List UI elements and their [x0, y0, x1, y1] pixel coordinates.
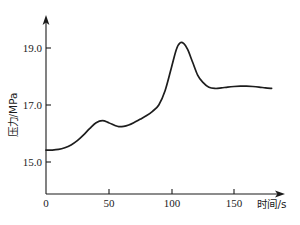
x-tick-label-100: 100 [164, 197, 181, 209]
pressure-curve [46, 42, 272, 150]
y-axis-title: 压力/MPa [7, 93, 19, 138]
x-tick-label-50: 50 [104, 197, 116, 209]
chart-figure: 19.0 17.0 15.0 0 50 100 150 时间/s 压力/MPa [0, 0, 300, 225]
x-axis-title: 时间/s [257, 198, 286, 210]
y-tick-label-17: 17.0 [23, 99, 43, 111]
x-tick-label-0: 0 [43, 197, 49, 209]
y-tick-label-15: 15.0 [23, 156, 43, 168]
y-tick-label-19: 19.0 [23, 42, 43, 54]
x-tick-label-150: 150 [226, 197, 243, 209]
pressure-time-plot: 19.0 17.0 15.0 0 50 100 150 时间/s 压力/MPa [0, 0, 300, 225]
